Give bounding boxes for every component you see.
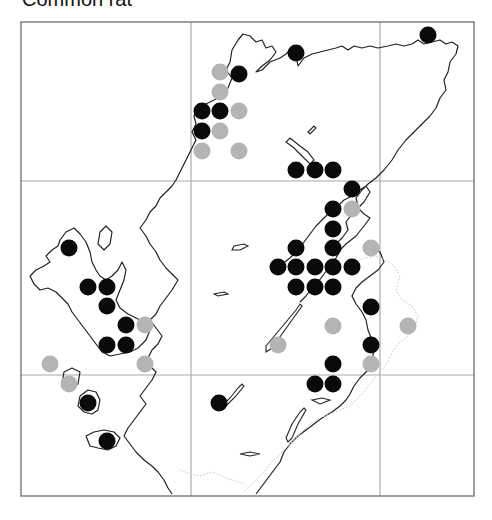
black-record-dot (363, 337, 380, 354)
grey-record-dot (231, 103, 248, 120)
black-record-dot (344, 181, 361, 198)
black-record-dot (118, 337, 135, 354)
black-record-dot (420, 27, 437, 44)
black-record-dot (118, 317, 135, 334)
black-record-dot (325, 279, 342, 296)
black-record-dot (194, 103, 211, 120)
black-record-dot (325, 162, 342, 179)
black-record-dot (288, 162, 305, 179)
grey-record-dot (212, 123, 229, 140)
black-record-dot (325, 376, 342, 393)
grey-record-dot (344, 201, 361, 218)
black-record-dot (325, 221, 342, 238)
distribution-map (0, 0, 492, 520)
black-record-dot (307, 279, 324, 296)
grey-record-dot (363, 240, 380, 257)
black-record-dot (325, 259, 342, 276)
coastline (30, 34, 458, 494)
grey-record-dot (231, 143, 248, 160)
grey-record-dot (137, 356, 154, 373)
black-record-dot (211, 395, 228, 412)
black-record-dot (325, 201, 342, 218)
grey-record-dot (270, 337, 287, 354)
black-record-dot (344, 259, 361, 276)
black-record-dot (325, 356, 342, 373)
black-record-dot (61, 240, 78, 257)
black-record-dot (325, 240, 342, 257)
grey-record-dot (42, 356, 59, 373)
black-record-dot (363, 299, 380, 316)
black-record-dot (80, 395, 97, 412)
black-record-dot (99, 279, 116, 296)
grid-lines (21, 22, 474, 496)
black-record-dot (80, 279, 97, 296)
black-record-dot (212, 103, 229, 120)
black-record-dot (194, 123, 211, 140)
grey-record-dot (363, 356, 380, 373)
black-record-dot (288, 45, 305, 62)
grey-record-dot (137, 317, 154, 334)
black-record-dot (288, 240, 305, 257)
grey-record-dot (325, 318, 342, 335)
black-record-dot (231, 66, 248, 83)
black-record-dot (307, 162, 324, 179)
black-record-dot (99, 298, 116, 315)
grey-record-dot (212, 84, 229, 101)
grey-record-dot (61, 376, 78, 393)
black-record-dot (270, 259, 287, 276)
grey-record-dot (194, 143, 211, 160)
grey-record-dot (400, 318, 417, 335)
grey-records-layer (42, 64, 417, 393)
grey-record-dot (212, 64, 229, 81)
black-record-dot (99, 433, 116, 450)
map-frame (21, 22, 474, 496)
black-record-dot (307, 259, 324, 276)
black-record-dot (307, 376, 324, 393)
black-record-dot (99, 337, 116, 354)
black-record-dot (288, 279, 305, 296)
black-record-dot (288, 259, 305, 276)
